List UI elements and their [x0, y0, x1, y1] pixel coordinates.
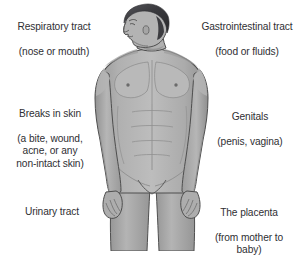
label-urinary-tract: Urinary tract: [2, 193, 102, 231]
label-breaks-detail: (a bite, wound, acne, or any non-intact …: [0, 133, 100, 171]
label-genitals-detail: (penis, vagina): [200, 136, 300, 149]
label-placenta-title: The placenta: [198, 207, 300, 220]
label-placenta: The placenta (from mother to baby): [198, 194, 300, 259]
label-breaks-in-skin: Breaks in skin (a bite, wound, acne, or …: [0, 95, 100, 183]
label-respiratory-detail: (nose or mouth): [2, 46, 106, 59]
ear: [143, 26, 149, 34]
right-nipple: [174, 83, 177, 86]
label-gi-detail: (food or fluids): [194, 46, 300, 59]
left-nipple: [126, 83, 129, 86]
label-gi-title: Gastrointestinal tract: [194, 21, 300, 34]
label-gastrointestinal-tract: Gastrointestinal tract (food or fluids): [194, 8, 300, 71]
label-genitals: Genitals (penis, vagina): [200, 98, 300, 161]
label-urinary-title: Urinary tract: [2, 206, 102, 219]
label-breaks-title: Breaks in skin: [0, 108, 100, 121]
label-respiratory-title: Respiratory tract: [2, 21, 106, 34]
label-genitals-title: Genitals: [200, 111, 300, 124]
label-respiratory-tract: Respiratory tract (nose or mouth): [2, 8, 106, 71]
label-placenta-detail: (from mother to baby): [198, 232, 300, 257]
